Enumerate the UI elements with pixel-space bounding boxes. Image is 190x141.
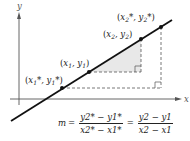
point-x2-y2 xyxy=(139,37,143,41)
point-x1-y1 xyxy=(87,70,91,74)
slope-formula: m = y2* − y1* x2* − x1* = y2 − y1 x2 − x… xyxy=(58,108,175,138)
x-axis-arrow-icon xyxy=(175,97,182,101)
formula-lhs: m xyxy=(58,118,66,128)
fraction-starred-numerator: y2* − y1* xyxy=(79,112,122,124)
fraction-plain-numerator: y2 − y1 xyxy=(138,112,173,124)
fraction-starred: y2* − y1* x2* − x1* xyxy=(79,112,122,135)
point-x1star-y1star xyxy=(60,86,64,90)
y-axis-arrow-icon xyxy=(17,12,21,19)
fraction-starred-denominator: x2* − x1* xyxy=(79,124,122,135)
formula-equals-2: = xyxy=(127,118,134,128)
point-x2star-y2star xyxy=(159,25,163,29)
fraction-plain-denominator: x2 − x1 xyxy=(138,124,173,135)
y-axis-label: y xyxy=(16,1,22,11)
line xyxy=(11,20,172,121)
formula-equals: = xyxy=(68,118,75,128)
label-x2-y2: (x2, y2) xyxy=(103,29,132,40)
x-axis-label: x xyxy=(184,94,189,104)
label-x1-y1: (x1, y1) xyxy=(60,58,89,69)
label-x1star-y1star: (x1*, y1*) xyxy=(25,75,63,86)
fraction-plain: y2 − y1 x2 − x1 xyxy=(138,112,173,135)
label-x2star-y2star: (x2*, y2*) xyxy=(117,12,155,23)
right-angle-mark-outer xyxy=(155,82,161,88)
